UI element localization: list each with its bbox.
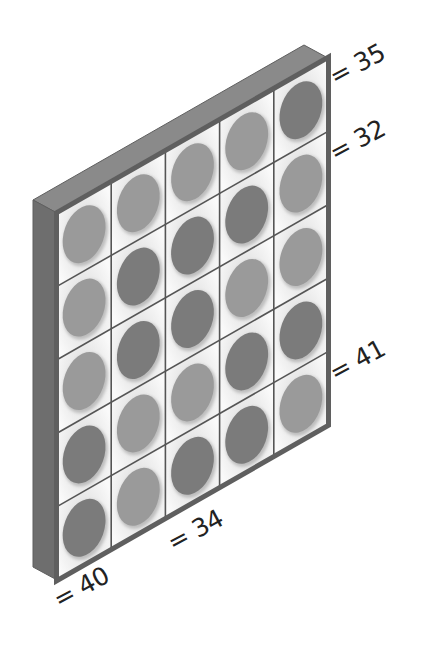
counter-grid-frame <box>0 0 422 645</box>
frame-left-face <box>33 200 57 580</box>
counter-grid-figure: = 35 = 32 = 41 = 34 = 40 <box>0 0 422 645</box>
